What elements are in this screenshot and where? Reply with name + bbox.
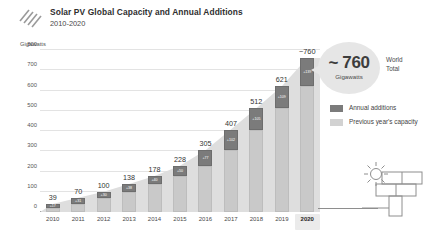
sun-solar-panel-icon — [362, 158, 428, 220]
y-axis-tick-label: 600 — [11, 82, 37, 88]
bar-addition-label: +30 — [98, 193, 110, 197]
page-subtitle: 2010-2020 — [50, 19, 243, 28]
legend: Annual additions Previous year's capacit… — [330, 104, 435, 132]
bar-segment-previous-capacity[interactable] — [300, 86, 314, 212]
bar-segment-annual-additions[interactable]: +38 — [122, 184, 136, 192]
x-axis-tick-label[interactable]: 2017 — [218, 214, 243, 230]
y-axis-tick-label: 400 — [11, 122, 37, 128]
bar-addition-label: +38 — [123, 186, 135, 190]
y-axis-tick-label: 300 — [11, 142, 37, 148]
bar-addition-label: +17 — [47, 204, 59, 208]
bar-addition-label: +109 — [276, 95, 288, 99]
legend-item-previous-capacity: Previous year's capacity — [330, 118, 435, 126]
bar-addition-label: +105 — [250, 117, 262, 121]
bar-slot: 228+50 — [167, 50, 192, 212]
legend-label: Annual additions — [349, 104, 396, 112]
x-axis-tick-label[interactable]: 2016 — [193, 214, 218, 230]
bar-slot: 621+109 — [269, 50, 294, 212]
x-axis-tick-label[interactable]: 2019 — [269, 214, 294, 230]
callout-unit: Gigawatts — [318, 73, 380, 80]
bar-segment-annual-additions[interactable]: +77 — [198, 150, 212, 166]
stacked-bar[interactable]: 621+109 — [275, 86, 289, 212]
stacked-bar[interactable]: 70+31 — [71, 198, 85, 212]
bar-addition-label: +102 — [225, 138, 237, 142]
stacked-bar[interactable]: 138+38 — [122, 184, 136, 212]
bar-segment-annual-additions[interactable]: +17 — [46, 204, 60, 207]
legend-label: Previous year's capacity — [349, 118, 418, 126]
page-title: Solar PV Global Capacity and Annual Addi… — [50, 7, 243, 17]
header-text: Solar PV Global Capacity and Annual Addi… — [50, 6, 243, 28]
bar-slot: 512+105 — [244, 50, 269, 212]
bar-segment-previous-capacity[interactable] — [173, 176, 187, 212]
y-axis-tick-label: 100 — [11, 183, 37, 189]
bar-slot: 100+30 — [91, 50, 116, 212]
stacked-bar[interactable]: 228+50 — [173, 166, 187, 212]
striped-panel-logo-icon — [18, 6, 42, 30]
x-axis-tick-label[interactable]: 2018 — [244, 214, 269, 230]
callout-value: ~ 760 — [318, 54, 380, 72]
bar-addition-label: +40 — [149, 178, 161, 182]
callout-side-line1: World — [386, 55, 403, 64]
bar-segment-previous-capacity[interactable] — [275, 108, 289, 212]
chart-page: Solar PV Global Capacity and Annual Addi… — [0, 0, 439, 236]
header: Solar PV Global Capacity and Annual Addi… — [18, 6, 243, 30]
bar-segment-previous-capacity[interactable] — [148, 184, 162, 212]
bar-segment-annual-additions[interactable]: +31 — [71, 198, 85, 204]
bar-addition-label: +50 — [174, 169, 186, 173]
bar-addition-label: +77 — [199, 156, 211, 160]
y-axis-tick-label: 0 — [11, 203, 37, 209]
bar-total-label: 512 — [250, 97, 262, 106]
x-axis-tick-label[interactable]: 2015 — [167, 214, 192, 230]
callout-side-line2: Total — [386, 64, 403, 73]
bar-total-label: 39 — [49, 193, 57, 202]
callout-side-label: World Total — [386, 55, 403, 73]
y-axis-tick-label: 500 — [11, 102, 37, 108]
stacked-bar[interactable]: 305+77 — [198, 150, 212, 212]
x-axis-tick-label[interactable]: 2012 — [91, 214, 116, 230]
y-axis-tick-label: 800 — [11, 41, 37, 47]
bar-segment-previous-capacity[interactable] — [46, 208, 60, 212]
legend-swatch-icon — [330, 119, 343, 126]
bar-total-label: 621 — [276, 75, 288, 84]
bar-segment-annual-additions[interactable]: +102 — [224, 130, 238, 151]
stacked-bar[interactable]: 39+17 — [46, 204, 60, 212]
plot-area: 0100200300400500600700800 39+1770+31100+… — [40, 50, 320, 212]
x-axis-tick-label[interactable]: 2013 — [116, 214, 141, 230]
x-axis-tick-label[interactable]: 2011 — [65, 214, 90, 230]
x-axis-tick-label[interactable]: 2010 — [40, 214, 65, 230]
bar-segment-annual-additions[interactable]: +40 — [148, 176, 162, 184]
bar-total-label: 70 — [74, 187, 82, 196]
bar-segment-previous-capacity[interactable] — [249, 130, 263, 212]
world-total-callout: ~ 760 Gigawatts — [318, 42, 380, 94]
bar-total-label: 407 — [225, 119, 237, 128]
bar-total-label: 100 — [98, 181, 110, 190]
bar-slot: 407+102 — [218, 50, 243, 212]
bar-segment-annual-additions[interactable]: +50 — [173, 166, 187, 176]
bar-total-label: 305 — [199, 139, 211, 148]
bar-segment-annual-additions[interactable]: +105 — [249, 108, 263, 129]
bar-segment-annual-additions[interactable]: +109 — [275, 86, 289, 108]
x-axis-tick-label[interactable]: 2020 — [295, 214, 320, 230]
stacked-bar[interactable]: 512+105 — [249, 108, 263, 212]
bar-series: 39+1770+31100+30138+38178+40228+50305+77… — [40, 50, 320, 212]
y-axis-tick-label: 200 — [11, 163, 37, 169]
stacked-bar[interactable]: ~760+139 — [300, 58, 314, 212]
x-axis: 2010201120122013201420152016201720182019… — [40, 214, 320, 230]
bar-segment-annual-additions[interactable]: +30 — [97, 192, 111, 198]
bar-total-label: 138 — [123, 173, 135, 182]
stacked-bar[interactable]: 407+102 — [224, 130, 238, 212]
bar-segment-previous-capacity[interactable] — [122, 192, 136, 212]
bar-total-label: 228 — [174, 155, 186, 164]
bar-segment-previous-capacity[interactable] — [71, 204, 85, 212]
bar-segment-previous-capacity[interactable] — [97, 198, 111, 212]
bar-slot: 178+40 — [142, 50, 167, 212]
stacked-bar[interactable]: 100+30 — [97, 192, 111, 212]
bar-segment-previous-capacity[interactable] — [198, 166, 212, 212]
stacked-bar[interactable]: 178+40 — [148, 176, 162, 212]
bar-slot: 39+17 — [40, 50, 65, 212]
bar-addition-label: +31 — [72, 199, 84, 203]
legend-swatch-icon — [330, 105, 343, 112]
bar-segment-previous-capacity[interactable] — [224, 150, 238, 212]
bar-total-label: 178 — [149, 165, 161, 174]
x-axis-tick-label[interactable]: 2014 — [142, 214, 167, 230]
